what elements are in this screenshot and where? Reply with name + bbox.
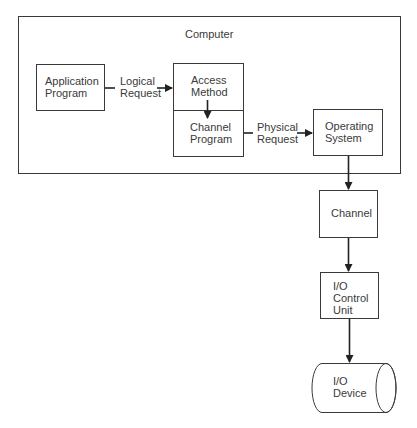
- io-control-unit-label: I/O Control Unit: [333, 280, 368, 316]
- channel-label: Channel: [331, 207, 372, 219]
- computer-label: Computer: [185, 28, 233, 40]
- channel-program-label: Channel Program: [190, 121, 232, 145]
- operating-system-label: Operating System: [325, 120, 373, 144]
- access-method-label: Access Method: [191, 74, 228, 98]
- logical-request-label: Logical Request: [120, 75, 161, 99]
- io-device-label: I/O Device: [333, 375, 367, 399]
- application-program-label: Application Program: [45, 75, 99, 99]
- io-device-cylinder-end: [376, 364, 396, 413]
- physical-request-label: Physical Request: [257, 121, 298, 145]
